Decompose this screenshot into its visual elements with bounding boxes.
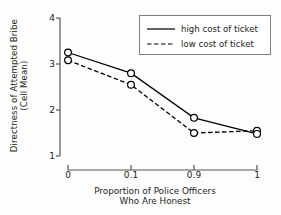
x-axis-title-line1: Proportion of Police Officers xyxy=(40,186,270,196)
x-axis-title-line2: Who Are Honest xyxy=(40,196,270,206)
legend-label-low-cost: low cost of ticket xyxy=(181,39,254,49)
data-point-marker xyxy=(65,49,72,56)
y-axis-tick-labels: 4 3 2 1 xyxy=(33,18,55,156)
y-axis-title-line2: (Cell Mean) xyxy=(20,19,30,152)
series-low-cost-of-ticket xyxy=(65,57,261,136)
y-tick-label-1: 1 xyxy=(35,151,55,161)
data-point-marker xyxy=(191,114,198,121)
x-tick-label-1: 1 xyxy=(237,170,277,180)
x-tick-label-0.1: 0.1 xyxy=(111,170,151,180)
legend-item-low-cost: low cost of ticket xyxy=(147,36,264,51)
series-line-solid xyxy=(68,53,257,134)
series-high-cost-of-ticket xyxy=(65,49,261,137)
chart-figure: Directness of Attempted Bribe (Cell Mean… xyxy=(0,0,281,215)
x-tick-label-0.9: 0.9 xyxy=(174,170,214,180)
legend-item-high-cost: high cost of ticket xyxy=(147,21,264,36)
series-line-dashed xyxy=(68,60,257,133)
legend-line-solid-icon xyxy=(147,24,175,34)
x-tick-label-0: 0 xyxy=(48,170,88,180)
data-point-marker xyxy=(65,57,72,64)
legend: high cost of ticket low cost of ticket xyxy=(139,15,271,55)
y-tick-label-3: 3 xyxy=(35,59,55,69)
data-point-marker xyxy=(191,130,198,137)
data-point-marker xyxy=(254,131,261,138)
x-axis-title: Proportion of Police Officers Who Are Ho… xyxy=(40,186,270,207)
data-point-marker xyxy=(128,81,135,88)
y-tick-label-4: 4 xyxy=(35,13,55,23)
x-axis-tick-labels: 0 0.1 0.9 1 xyxy=(60,170,260,184)
legend-line-dashed-icon xyxy=(147,39,175,49)
y-tick-label-2: 2 xyxy=(35,105,55,115)
data-point-marker xyxy=(128,70,135,77)
legend-label-high-cost: high cost of ticket xyxy=(181,24,258,34)
